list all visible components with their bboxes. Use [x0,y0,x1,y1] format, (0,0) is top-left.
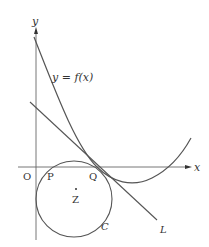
y-axis-label: y [31,15,39,28]
center-z-label: Z [72,194,79,205]
x-axis-arrow-icon [185,165,192,169]
center-z-dot [75,188,77,190]
curve-label: y = f(x) [51,71,93,84]
point-q-label: Q [89,171,97,182]
x-axis-label: x [194,161,201,174]
line-l-label: L [159,224,167,235]
circle-c-label: C [101,221,109,232]
curve-f [34,37,191,183]
point-p-label: P [47,171,54,182]
origin-label: O [23,171,31,182]
y-axis-arrow-icon [34,27,38,34]
tangent-line-l [30,102,157,220]
diagram: y x O y = f(x) P Q Z C L [0,0,209,247]
